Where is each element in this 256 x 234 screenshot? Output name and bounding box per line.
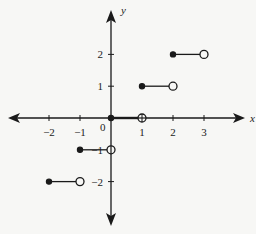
x-tick-label: 1 [139,126,145,138]
step-function-chart: x y 0 −2−112321−1−2 [0,0,256,234]
y-tick-label: 1 [98,80,104,92]
y-tick-label: 2 [98,48,104,60]
closed-endpoint-icon [139,84,144,89]
open-endpoint-icon [200,50,208,58]
y-tick-label: −2 [91,176,103,188]
closed-endpoint-icon [46,179,51,184]
x-tick-label: −2 [43,126,55,138]
x-axis-label: x [249,112,255,124]
y-axis-label: y [120,4,126,16]
closed-endpoint-icon [77,147,82,152]
x-tick-label: 2 [170,126,176,138]
closed-endpoint-icon [108,115,113,120]
closed-endpoint-icon [170,52,175,57]
open-endpoint-icon [169,82,177,90]
open-endpoint-icon [76,178,84,186]
x-tick-label: 3 [201,126,207,138]
axes: x y 0 [8,4,255,226]
origin-label: 0 [100,121,106,133]
x-tick-label: −1 [74,126,86,138]
